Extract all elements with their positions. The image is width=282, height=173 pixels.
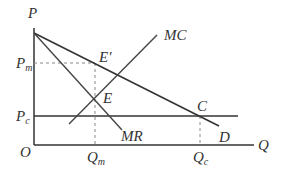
- monopoly-diagram: P Q O Pm Pc Qm Qc MC MR D E′ E C: [0, 0, 282, 173]
- y-axis-label: P: [27, 5, 37, 21]
- demand-curve-label: D: [218, 129, 230, 145]
- qc-label: Qc: [193, 149, 209, 167]
- demand-curve: [34, 33, 219, 126]
- qm-label: Qm: [87, 149, 105, 167]
- point-e-label: E: [102, 90, 112, 106]
- origin-label: O: [20, 144, 31, 160]
- point-c-label: C: [197, 98, 208, 114]
- marginal-cost-curve: [69, 35, 157, 124]
- x-axis-label: Q: [258, 137, 269, 153]
- pm-label: Pm: [15, 55, 32, 73]
- mr-curve-label: MR: [120, 128, 143, 144]
- point-e-prime-label: E′: [98, 49, 112, 65]
- pc-label: Pc: [15, 108, 30, 126]
- mc-curve-label: MC: [163, 27, 187, 43]
